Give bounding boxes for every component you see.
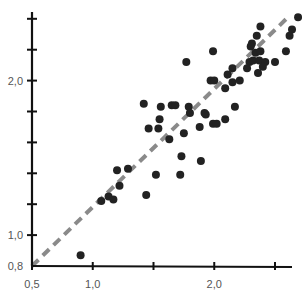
data-point bbox=[221, 115, 229, 123]
data-point bbox=[196, 123, 204, 131]
data-point bbox=[231, 103, 239, 111]
scatter-chart: 0,51,02,00,81,02,0 bbox=[0, 0, 302, 303]
data-point bbox=[157, 103, 165, 111]
data-point bbox=[182, 58, 190, 66]
data-point bbox=[77, 251, 85, 259]
data-point bbox=[197, 157, 205, 165]
data-point bbox=[152, 171, 160, 179]
data-points bbox=[77, 13, 302, 259]
x-tick-label: 0,5 bbox=[24, 278, 39, 290]
data-point bbox=[165, 135, 173, 143]
data-point bbox=[294, 13, 302, 21]
data-point bbox=[124, 165, 132, 173]
x-tick-label: 1,0 bbox=[85, 278, 100, 290]
data-point bbox=[109, 196, 117, 204]
data-point bbox=[243, 64, 251, 72]
identity-reference-line bbox=[32, 16, 290, 266]
data-point bbox=[154, 124, 162, 132]
data-point bbox=[271, 58, 279, 66]
data-point bbox=[113, 166, 121, 174]
data-point bbox=[254, 69, 262, 77]
data-point bbox=[97, 197, 105, 205]
data-point bbox=[228, 78, 236, 86]
y-tick-label: 1,0 bbox=[8, 229, 23, 241]
data-point bbox=[156, 115, 164, 123]
data-point bbox=[186, 109, 194, 117]
data-point bbox=[201, 109, 209, 117]
data-point bbox=[221, 84, 229, 92]
x-axis-line bbox=[32, 266, 292, 267]
data-point bbox=[171, 101, 179, 109]
data-point bbox=[140, 100, 148, 108]
data-point bbox=[145, 124, 153, 132]
y-tick-label: 0,8 bbox=[8, 260, 23, 272]
data-point bbox=[176, 171, 184, 179]
data-point bbox=[282, 47, 290, 55]
data-point bbox=[210, 77, 218, 85]
data-point bbox=[213, 120, 221, 128]
data-point bbox=[180, 129, 188, 137]
data-point bbox=[256, 47, 264, 55]
y-tick-label: 2,0 bbox=[8, 75, 23, 87]
data-point bbox=[256, 23, 264, 31]
data-point bbox=[209, 47, 217, 55]
data-point bbox=[142, 191, 150, 199]
data-point bbox=[236, 77, 244, 85]
data-point bbox=[224, 70, 232, 78]
x-tick-label: 2,0 bbox=[207, 278, 222, 290]
data-point bbox=[286, 32, 294, 40]
data-point bbox=[253, 32, 261, 40]
data-point bbox=[177, 152, 185, 160]
reference-line bbox=[32, 16, 290, 266]
data-point bbox=[115, 182, 123, 190]
